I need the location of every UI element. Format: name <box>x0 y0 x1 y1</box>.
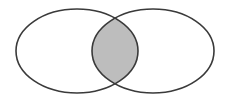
venn-diagram <box>0 0 230 106</box>
